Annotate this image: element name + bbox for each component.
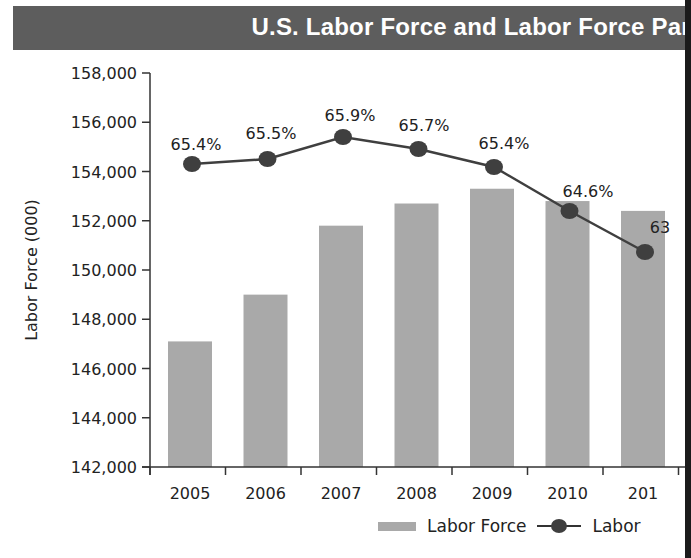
- bar-2010: [546, 201, 590, 467]
- line-marker-2009: [485, 159, 503, 175]
- chart-legend: Labor Force Labor: [378, 516, 641, 536]
- x-tick-label: 201: [628, 484, 659, 503]
- bar-2009: [470, 189, 514, 467]
- y-tick-label: 150,000: [71, 261, 137, 280]
- participation-label: 65.4%: [479, 134, 530, 153]
- x-tick-label: 2005: [170, 484, 211, 503]
- y-tick-label: 158,000: [71, 64, 137, 83]
- line-marker-2010: [561, 203, 579, 219]
- y-tick-label: 144,000: [71, 409, 137, 428]
- participation-label: 65.5%: [246, 124, 297, 143]
- bar-2007: [319, 226, 363, 467]
- line-marker-2005: [183, 156, 201, 172]
- legend-bar-label: Labor Force: [427, 516, 526, 536]
- y-tick-label: 146,000: [71, 360, 137, 379]
- bar-2006: [244, 295, 288, 467]
- chart-plot-area: 158,000156,000154,000152,000150,000148,0…: [0, 0, 691, 558]
- x-tick-label: 2010: [547, 484, 588, 503]
- x-tick-label: 2008: [396, 484, 437, 503]
- y-tick-label: 148,000: [71, 310, 137, 329]
- y-tick-label: 152,000: [71, 212, 137, 231]
- legend-line-label: Labor: [592, 516, 640, 536]
- x-tick-label: 2006: [245, 484, 286, 503]
- participation-label: 64.6%: [563, 182, 614, 201]
- page-edge-divider: [685, 0, 691, 558]
- participation-label: 63: [650, 218, 670, 237]
- y-tick-label: 156,000: [71, 113, 137, 132]
- line-marker-2007: [334, 129, 352, 145]
- legend-bar-swatch-icon: [378, 522, 416, 531]
- y-tick-label: 154,000: [71, 163, 137, 182]
- line-marker-2011: [636, 244, 654, 260]
- x-tick-label: 2009: [472, 484, 513, 503]
- participation-label: 65.9%: [325, 106, 376, 125]
- bar-2005: [168, 341, 212, 467]
- x-tick-label: 2007: [321, 484, 362, 503]
- line-marker-2006: [259, 151, 277, 167]
- y-tick-label: 142,000: [71, 458, 137, 477]
- line-marker-2008: [410, 141, 428, 157]
- legend-line-marker-icon: [537, 518, 581, 534]
- y-axis-title: Labor Force (000): [22, 199, 41, 341]
- participation-label: 65.4%: [171, 135, 222, 154]
- participation-label: 65.7%: [399, 116, 450, 135]
- bar-2008: [395, 204, 439, 467]
